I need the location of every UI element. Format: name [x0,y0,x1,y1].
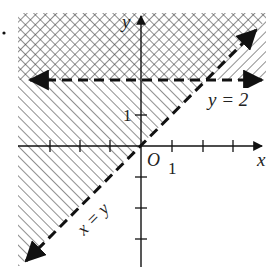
bullet-dot [2,31,5,34]
label-y-equals-2: y = 2 [206,89,249,110]
y-axis-label: y [120,11,131,32]
inequality-graph: y x O 1 1 y = 2 x = y [0,0,274,267]
y-tick-label-1: 1 [123,106,132,125]
x-axis-label: x [256,149,266,170]
x-tick-label-1: 1 [168,159,177,178]
origin-label: O [147,150,160,170]
region-y-greater-than-2 [18,13,268,80]
